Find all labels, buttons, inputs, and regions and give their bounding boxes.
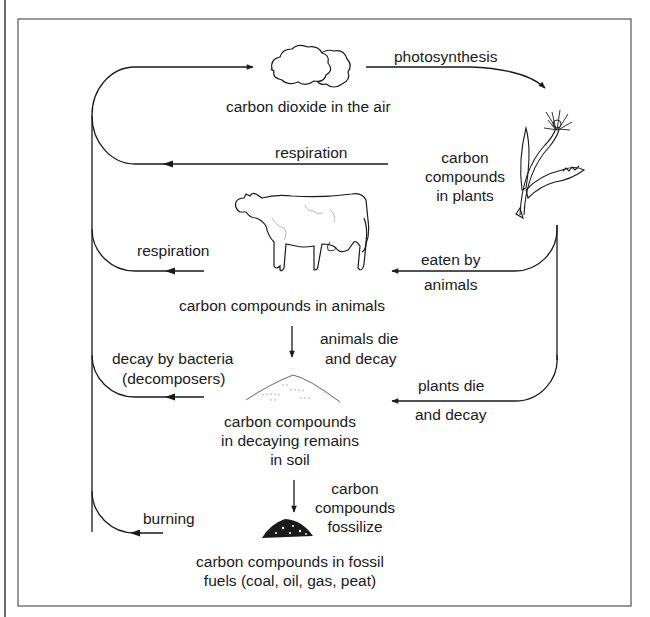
fossilize-line3: fossilize (305, 517, 405, 536)
eaten-label-line2: animals (424, 275, 477, 294)
fossil-label-line1: carbon compounds in fossil (170, 552, 410, 571)
plants-die-line1: plants die (418, 376, 484, 395)
eaten-label-line1: eaten by (421, 250, 480, 269)
animals-node-label: carbon compounds in animals (179, 296, 385, 315)
animal-respiration-label: respiration (137, 241, 209, 260)
cow-icon (236, 193, 369, 270)
soil-label-line3: in soil (205, 450, 375, 469)
soil-heap-icon (246, 375, 340, 402)
cloud-icon (271, 45, 350, 87)
air-node-label: carbon dioxide in the air (226, 97, 391, 116)
decay-bacteria-line2: (decomposers) (122, 369, 225, 388)
fossilize-line1: carbon (305, 479, 405, 498)
fossil-node-label: carbon compounds in fossil fuels (coal, … (170, 552, 410, 590)
plant-respiration-label: respiration (275, 143, 347, 162)
fossilize-label: carbon compounds fossilize (305, 479, 405, 536)
soil-label-line1: carbon compounds (205, 412, 375, 431)
burning-label: burning (143, 509, 195, 528)
photosynthesis-arrow (366, 67, 545, 88)
plants-die-line2: and decay (415, 405, 487, 424)
fossilize-line2: compounds (305, 498, 405, 517)
dandelion-plant-icon (516, 110, 584, 218)
plants-node-label: carbon compounds in plants (414, 148, 516, 205)
animals-die-line1: animals die (320, 329, 398, 348)
plants-label-line3: in plants (414, 186, 516, 205)
plants-label-line2: compounds (414, 167, 516, 186)
animals-die-line2: and decay (325, 349, 397, 368)
soil-label-line2: in decaying remains (205, 431, 375, 450)
soil-node-label: carbon compounds in decaying remains in … (205, 412, 375, 469)
decay-bacteria-line1: decay by bacteria (112, 349, 234, 368)
plants-label-line1: carbon (414, 148, 516, 167)
photosynthesis-label: photosynthesis (394, 47, 497, 66)
fossil-label-line2: fuels (coal, oil, gas, peat) (170, 571, 410, 590)
